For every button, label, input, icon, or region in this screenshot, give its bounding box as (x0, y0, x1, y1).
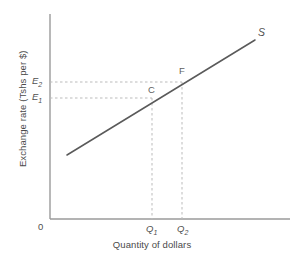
y-axis-title: Exchange rate (Tshs per $) (18, 24, 28, 194)
origin-label: 0 (38, 222, 43, 232)
x-tick-label-q2: Q2 (177, 224, 188, 236)
y-tick-e2-subscript: 2 (38, 81, 42, 88)
x-tick-label-q1: Q1 (146, 224, 157, 236)
x-tick-q2-subscript: 2 (184, 229, 188, 236)
y-axis-title-wrapper: Exchange rate (Tshs per $) (0, 0, 30, 220)
curve-label-s: S (258, 27, 265, 38)
y-tick-label-e1: E1 (32, 92, 42, 104)
exchange-rate-supply-chart: Exchange rate (Tshs per $) Quantity of d… (0, 0, 304, 267)
point-label-f: F (179, 66, 185, 76)
x-tick-q1-subscript: 1 (153, 229, 157, 236)
point-label-c: C (148, 85, 155, 95)
y-tick-label-e2: E2 (32, 76, 42, 88)
x-axis-title: Quantity of dollars (0, 240, 304, 250)
y-tick-e1-subscript: 1 (38, 97, 42, 104)
